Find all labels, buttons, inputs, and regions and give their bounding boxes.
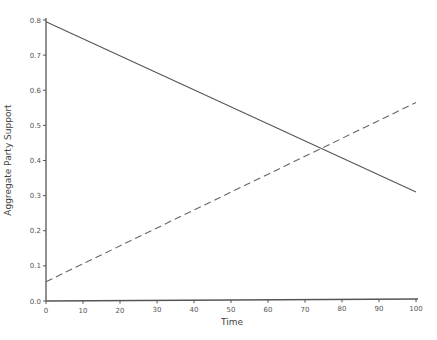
y-tick-label: 0.5 [30, 122, 41, 130]
dashed-series-line [46, 103, 416, 282]
y-axis-ticks: 0.00.10.20.30.40.50.60.70.8 [30, 17, 46, 306]
x-tick-label: 70 [301, 306, 310, 314]
y-tick-label: 0.4 [30, 157, 42, 165]
y-axis-label: Aggregate Party Support [3, 104, 13, 216]
x-tick-label: 20 [116, 307, 125, 315]
x-tick-label: 50 [227, 306, 236, 314]
x-tick-label: 10 [79, 307, 88, 315]
x-tick-label: 30 [153, 306, 162, 314]
y-tick-label: 0.7 [30, 52, 41, 60]
x-tick-label: 80 [338, 305, 347, 313]
x-tick-label: 100 [409, 305, 422, 313]
x-axis-label: Time [220, 317, 243, 327]
y-tick-label: 0.8 [30, 17, 41, 25]
line-chart: 0.00.10.20.30.40.50.60.70.8 010203040506… [0, 0, 437, 340]
x-axis-ticks: 0102030405060708090100 [44, 299, 423, 315]
y-tick-label: 0.6 [30, 87, 42, 95]
x-axis-line [46, 299, 418, 301]
y-tick-label: 0.2 [30, 227, 41, 235]
x-tick-label: 90 [375, 305, 384, 313]
y-tick-label: 0.0 [30, 298, 41, 306]
x-tick-label: 40 [190, 306, 199, 314]
x-tick-label: 60 [264, 306, 273, 314]
y-tick-label: 0.1 [30, 262, 41, 270]
x-tick-label: 0 [44, 307, 48, 315]
data-series [46, 22, 416, 282]
solid-series-line [46, 22, 416, 192]
y-tick-label: 0.3 [30, 192, 41, 200]
axes [46, 18, 418, 301]
